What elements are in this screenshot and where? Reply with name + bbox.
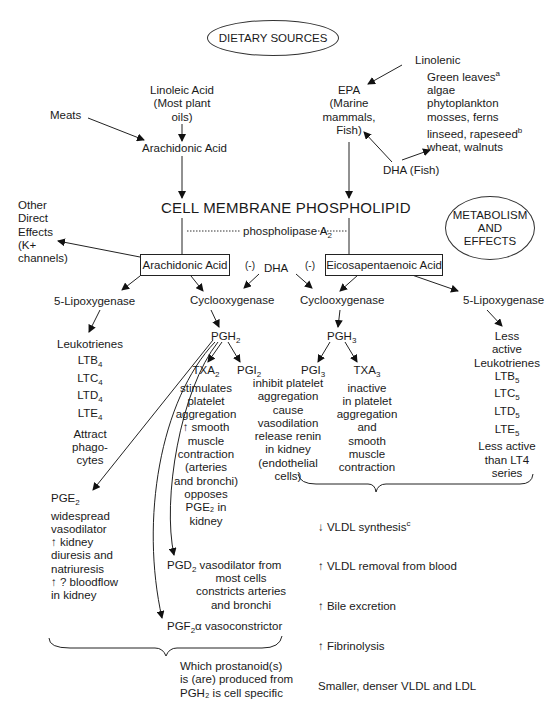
linolenic-item: algae — [427, 84, 522, 97]
pge2-effect: vasodilator — [51, 523, 118, 536]
dietary-sources-ellipse: DIETARY SOURCES — [207, 20, 339, 56]
pgd2-effect: and bronchi — [196, 599, 286, 612]
pgi-effect: cells) — [244, 470, 332, 483]
pge2-effect: ↑ ? bloodflow — [51, 576, 118, 589]
txa2-effect: opposes — [170, 488, 242, 501]
dha-inhibitor-label: DHA — [264, 262, 288, 275]
cell-membrane-title: CELL MEMBRANE PHOSPHOLIPID — [161, 201, 411, 214]
prostanoid-summary: Which prostanoid(s) is (are) produced fr… — [180, 660, 293, 700]
pgd2-effect: most cells — [196, 572, 286, 585]
other-effects-line: Effects — [18, 226, 68, 239]
txa2-effect: contraction — [170, 448, 242, 461]
leuk5-head: Less — [470, 330, 544, 343]
other-direct-effects: Other Direct Effects (K+ channels) — [18, 199, 68, 265]
linolenic-sources-list: Green leavesa algae phytoplankton mosses… — [427, 67, 522, 154]
leuk5-effect: series — [470, 467, 544, 480]
pgi-effects: inhibit platelet aggregation cause vasod… — [244, 377, 332, 483]
omega3-effects-list: ↓ VLDL synthesisc ↑ VLDL removal from bl… — [318, 490, 476, 709]
linolenic-title: Linolenic — [415, 54, 460, 67]
epa-line: EPA — [318, 84, 380, 97]
txa2-effect: PGE₂ in — [170, 501, 242, 514]
right-cyclooxygenase: Cyclooxygenase — [300, 294, 384, 307]
epa-line: mammals, — [318, 111, 380, 124]
pge2-block: PGE2 widespread vasodilator ↑ kidney diu… — [51, 492, 118, 603]
txa2-effect: aggregation — [170, 408, 242, 421]
pgi-effect: vasodilation — [244, 417, 332, 430]
left-5-lipoxygenase: 5-Lipoxygenase — [54, 295, 135, 308]
effect-item: ↑ VLDL removal from blood — [318, 560, 476, 573]
linolenic-item: wheat, walnuts — [427, 141, 522, 154]
linolenic-item: linseed, rapeseedb — [427, 124, 522, 141]
txa3-effect: smooth — [336, 435, 398, 448]
pgf2a-label: PGF2α vasoconstrictor — [167, 620, 282, 638]
pge2-effect: diuresis and — [51, 549, 118, 562]
leukotriene-effect: phago- — [52, 441, 128, 454]
leuk5-effect: than LT4 — [470, 454, 544, 467]
leukotriene5-item: LTD5 — [470, 405, 544, 423]
pgd2-effect: constricts arteries — [196, 585, 286, 598]
txa2-effect: muscle — [170, 435, 242, 448]
txa2-label: TXA2 — [170, 364, 242, 382]
effect-item: ↑ Bile excretion — [318, 600, 476, 613]
txa2-block: TXA2 stimulates platelet aggregation ↑ s… — [170, 364, 242, 528]
leuk5-effect: Less active — [470, 440, 544, 453]
linoleic-acid-source: Linoleic Acid (Most plant oils) — [142, 84, 222, 124]
txa3-block: TXA3 inactive in platelet aggregation an… — [336, 364, 398, 475]
inhibit-left-label: (-) — [245, 259, 255, 272]
linoleic-line: (Most plant — [142, 97, 222, 110]
other-effects-line: Other — [18, 199, 68, 212]
pgi-effect: aggregation — [244, 390, 332, 403]
pgi3-label: PGI3 — [301, 364, 325, 382]
pgh2-label: PGH2 — [211, 330, 240, 348]
eicosapentaenoic-acid-box: Eicosapentaenoic Acid — [325, 254, 443, 276]
linolenic-item: phytoplankton — [427, 97, 522, 110]
txa3-effect: inactive — [336, 382, 398, 395]
txa2-effect: stimulates — [170, 382, 242, 395]
pge2-effect: natriuresis — [51, 563, 118, 576]
other-effects-line: channels) — [18, 252, 68, 265]
summary-line: PGH₂ is cell specific — [180, 687, 293, 700]
metabolism-label: METABOLISM — [453, 209, 528, 222]
leukotrienes-title: Leukotrienes — [52, 338, 128, 351]
epa-source: EPA (Marine mammals, Fish) — [318, 84, 380, 137]
leukotriene-item: LTB4 — [52, 354, 128, 372]
leukotriene5-item: LTB5 — [470, 370, 544, 388]
txa3-effect: in platelet — [336, 395, 398, 408]
pgi-effect: (endothelial — [244, 457, 332, 470]
leuk5-head: active — [470, 343, 544, 356]
meats-label: Meats — [50, 109, 81, 122]
leukotriene5-item: LTC5 — [470, 387, 544, 405]
pgi-effect: release renin — [244, 430, 332, 443]
dha-fish-source: DHA (Fish) — [383, 164, 439, 177]
and-label: AND — [478, 222, 502, 235]
txa2-effect: platelet — [170, 395, 242, 408]
txa3-effect: and — [336, 421, 398, 434]
pgh3-label: PGH3 — [327, 330, 356, 348]
txa2-effect: kidney — [170, 515, 242, 528]
leukotriene-effect: Attract — [52, 428, 128, 441]
epa-line: Fish) — [318, 124, 380, 137]
pge2-effect: widespread — [51, 510, 118, 523]
effect-item: Smaller, denser VLDL and LDL — [318, 680, 476, 693]
txa2-effect: and bronchi) — [170, 475, 242, 488]
leukotriene-item: LTD4 — [52, 389, 128, 407]
metabolism-effects-ellipse: METABOLISM AND EFFECTS — [445, 196, 535, 260]
linolenic-item: mosses, ferns — [427, 111, 522, 124]
txa3-effect: contraction — [336, 461, 398, 474]
effects-label: EFFECTS — [464, 235, 516, 248]
phospholipase-label: phospholipase A2 — [243, 225, 332, 243]
leukotriene-item: LTE4 — [52, 407, 128, 425]
other-effects-line: Direct — [18, 212, 68, 225]
arachidonic-acid-box: Arachidonic Acid — [140, 254, 230, 276]
effect-item: ↑ Fibrinolysis — [318, 640, 476, 653]
leukotriene-item: LTC4 — [52, 372, 128, 390]
leukotrienes-5-series: Less active Leukotrienes LTB5 LTC5 LTD5 … — [470, 330, 544, 480]
effect-item: ↓ VLDL synthesisc — [318, 517, 476, 534]
pge2-label: PGE2 — [51, 492, 118, 510]
arachidonic-acid-source: Arachidonic Acid — [142, 142, 222, 155]
txa3-label: TXA3 — [336, 364, 398, 382]
linoleic-line: oils) — [142, 111, 222, 124]
pgi-effect: in kidney — [244, 443, 332, 456]
pge2-effect: ↑ kidney — [51, 536, 118, 549]
right-5-lipoxygenase: 5-Lipoxygenase — [463, 294, 544, 307]
